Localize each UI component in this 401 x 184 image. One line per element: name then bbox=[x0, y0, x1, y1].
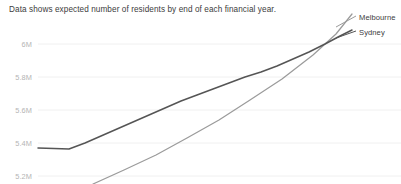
ytick-label-5-6m: 5.6M bbox=[0, 106, 32, 115]
gridlines bbox=[38, 44, 401, 176]
plot-area: 6M 5.8M 5.6M 5.4M 5.2M bbox=[0, 0, 401, 184]
data-series-group bbox=[38, 14, 352, 184]
ytick-label-5-2m: 5.2M bbox=[0, 172, 32, 181]
ytick-label-5-4m: 5.4M bbox=[0, 139, 32, 148]
ytick-label-6m: 6M bbox=[0, 40, 32, 49]
legend-connector-melbourne bbox=[336, 16, 356, 27]
legend-item-sydney[interactable]: Sydney bbox=[359, 28, 385, 37]
legend-connector-lines bbox=[336, 16, 356, 38]
series-line-melbourne bbox=[93, 14, 352, 184]
legend-connector-sydney bbox=[336, 31, 356, 38]
legend-item-melbourne[interactable]: Melbourne bbox=[359, 13, 396, 22]
chart-plot-svg bbox=[0, 0, 401, 184]
series-line-sydney bbox=[38, 30, 352, 149]
ytick-label-5-8m: 5.8M bbox=[0, 73, 32, 82]
line-chart-widget: Data shows expected number of residents … bbox=[0, 0, 401, 184]
